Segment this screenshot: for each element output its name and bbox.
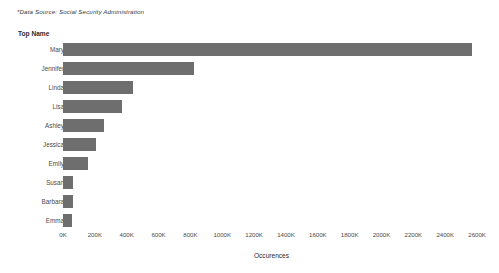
x-tick-label: 0K [59, 231, 66, 238]
bar-category-label: Ashley [45, 116, 64, 135]
bar[interactable] [63, 43, 472, 56]
bar-track [63, 78, 493, 97]
bar-track [63, 192, 493, 211]
x-tick-label: 2600K [468, 231, 486, 238]
bar-row[interactable]: Ashley [0, 116, 499, 135]
x-tick-label: 2000K [373, 231, 391, 238]
bar-row[interactable]: Jennifer [0, 59, 499, 78]
x-tick-label: 1000K [213, 231, 231, 238]
x-tick-label: 1200K [245, 231, 263, 238]
x-tick-label: 2200K [405, 231, 423, 238]
x-axis-line [63, 228, 493, 229]
bar[interactable] [63, 157, 88, 170]
bar-row[interactable]: Lisa [0, 97, 499, 116]
bar-category-label: Barbara [42, 192, 64, 211]
bar-track [63, 173, 493, 192]
bar[interactable] [63, 195, 73, 208]
x-tick-label: 1600K [309, 231, 327, 238]
bar-track [63, 97, 493, 116]
bar[interactable] [63, 81, 133, 94]
bar-category-label: Jennifer [42, 59, 64, 78]
x-tick-label: 400K [120, 231, 134, 238]
dimension-header-top-name: Top Name [18, 30, 49, 37]
x-tick-label: 600K [151, 231, 165, 238]
bar-category-label: Emily [49, 154, 64, 173]
bar[interactable] [63, 138, 96, 151]
bar-row-list: MaryJenniferLindaLisaAshleyJessicaEmilyS… [0, 40, 499, 230]
bar-track [63, 40, 493, 59]
bar[interactable] [63, 214, 72, 227]
x-tick-label: 1800K [341, 231, 359, 238]
bar-track [63, 154, 493, 173]
bar-track [63, 116, 493, 135]
x-tick-label: 800K [183, 231, 197, 238]
x-axis: 0K200K400K600K800K1000K1200K1400K1600K18… [0, 228, 499, 242]
bar-row[interactable]: Susan [0, 173, 499, 192]
data-source-note: *Data Source: Social Security Administra… [17, 8, 144, 15]
x-axis-title-text: Occurences [210, 252, 289, 259]
bar[interactable] [63, 176, 73, 189]
bar-row[interactable]: Barbara [0, 192, 499, 211]
bar-category-label: Susan [46, 173, 64, 192]
bar-track [63, 135, 493, 154]
chart-page: *Data Source: Social Security Administra… [0, 0, 499, 273]
x-tick-label: 200K [88, 231, 102, 238]
x-tick-label: 2400K [436, 231, 454, 238]
bar-category-label: Jessica [43, 135, 64, 154]
bar-row[interactable]: Jessica [0, 135, 499, 154]
bar-track [63, 59, 493, 78]
chart-plot-area: MaryJenniferLindaLisaAshleyJessicaEmilyS… [0, 40, 499, 230]
bar-row[interactable]: Mary [0, 40, 499, 59]
bar[interactable] [63, 62, 194, 75]
bar[interactable] [63, 100, 122, 113]
bar-row[interactable]: Linda [0, 78, 499, 97]
bar-row[interactable]: Emily [0, 154, 499, 173]
x-axis-title: Occurences [0, 252, 499, 259]
bar-category-label: Mary [50, 40, 64, 59]
x-tick-label: 1400K [277, 231, 295, 238]
bar-category-label: Linda [49, 78, 64, 97]
bar[interactable] [63, 119, 104, 132]
